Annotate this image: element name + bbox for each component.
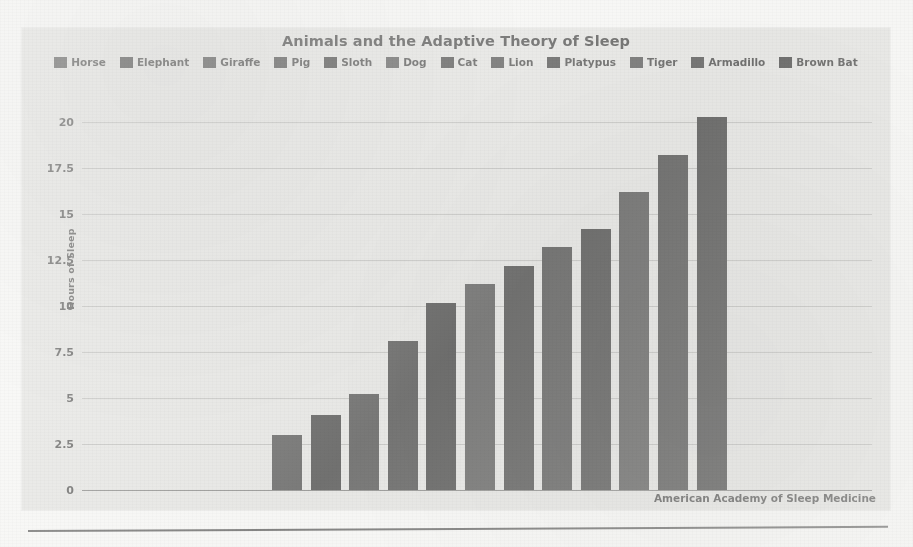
legend-item[interactable]: Platypus	[547, 56, 616, 68]
legend-label: Horse	[71, 56, 106, 68]
bar[interactable]	[504, 266, 534, 490]
bar[interactable]	[311, 415, 341, 490]
y-tick-label: 10	[59, 300, 74, 313]
legend-item[interactable]: Pig	[274, 56, 310, 68]
legend-label: Dog	[403, 56, 426, 68]
axis-baseline	[82, 490, 872, 491]
y-tick-label: 12.5	[47, 254, 74, 267]
y-tick-label: 20	[59, 116, 74, 129]
bar[interactable]	[542, 247, 572, 490]
bar[interactable]	[697, 117, 727, 490]
chart-legend: HorseElephantGiraffePigSlothDogCatLionPl…	[22, 56, 890, 68]
y-tick-label: 17.5	[47, 162, 74, 175]
legend-swatch-icon	[203, 57, 216, 68]
legend-label: Brown Bat	[796, 56, 857, 68]
bar[interactable]	[465, 284, 495, 490]
legend-swatch-icon	[779, 57, 792, 68]
y-axis-label: Hours of Sleep	[65, 228, 76, 309]
legend-label: Platypus	[564, 56, 616, 68]
legend-label: Pig	[291, 56, 310, 68]
legend-label: Lion	[508, 56, 533, 68]
bar[interactable]	[426, 303, 456, 490]
legend-label: Elephant	[137, 56, 189, 68]
legend-item[interactable]: Giraffe	[203, 56, 260, 68]
chart-panel: Animals and the Adaptive Theory of Sleep…	[22, 28, 890, 510]
plot-area: 02.557.51012.51517.520	[82, 104, 872, 490]
page-divider	[28, 526, 888, 532]
legend-item[interactable]: Horse	[54, 56, 106, 68]
y-tick-label: 2.5	[55, 438, 75, 451]
bar[interactable]	[272, 435, 302, 490]
y-tick-label: 0	[66, 484, 74, 497]
bar[interactable]	[388, 341, 418, 490]
legend-item[interactable]: Lion	[491, 56, 533, 68]
source-note: American Academy of Sleep Medicine	[654, 492, 876, 504]
legend-swatch-icon	[441, 57, 454, 68]
legend-swatch-icon	[491, 57, 504, 68]
legend-item[interactable]: Brown Bat	[779, 56, 857, 68]
chart-title: Animals and the Adaptive Theory of Sleep	[22, 33, 890, 49]
bar[interactable]	[658, 155, 688, 490]
legend-item[interactable]: Armadillo	[691, 56, 765, 68]
legend-item[interactable]: Sloth	[324, 56, 372, 68]
bar-series	[82, 104, 872, 490]
legend-item[interactable]: Cat	[441, 56, 478, 68]
bar[interactable]	[619, 192, 649, 490]
y-tick-label: 7.5	[55, 346, 75, 359]
legend-label: Giraffe	[220, 56, 260, 68]
legend-item[interactable]: Tiger	[630, 56, 678, 68]
legend-item[interactable]: Dog	[386, 56, 426, 68]
legend-swatch-icon	[547, 57, 560, 68]
y-tick-label: 15	[59, 208, 74, 221]
legend-label: Sloth	[341, 56, 372, 68]
legend-label: Cat	[458, 56, 478, 68]
legend-swatch-icon	[324, 57, 337, 68]
legend-swatch-icon	[691, 57, 704, 68]
legend-swatch-icon	[630, 57, 643, 68]
legend-item[interactable]: Elephant	[120, 56, 189, 68]
legend-swatch-icon	[386, 57, 399, 68]
legend-label: Armadillo	[708, 56, 765, 68]
legend-swatch-icon	[120, 57, 133, 68]
bar[interactable]	[349, 394, 379, 490]
legend-swatch-icon	[54, 57, 67, 68]
bar[interactable]	[581, 229, 611, 490]
y-tick-label: 5	[66, 392, 74, 405]
legend-swatch-icon	[274, 57, 287, 68]
legend-label: Tiger	[647, 56, 678, 68]
